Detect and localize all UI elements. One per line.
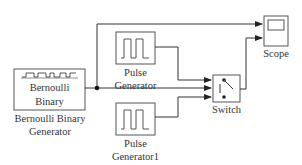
line-pulse1-to-switch [155,97,211,117]
bernoulli-block-label: Bernoulli Binary Generator [0,113,100,137]
line-switch-to-scope [240,38,262,89]
pulse-label-line1: Pulse [103,67,168,78]
branch-junction [95,86,100,91]
bernoulli-inner-line1: Bernoulli [14,82,85,93]
bernoulli-inner-line2: Binary [14,96,85,107]
bernoulli-inner-label: Bernoulli Binary [14,82,85,107]
pulse-generator-block[interactable] [116,32,155,64]
scope-block[interactable] [264,16,288,46]
switch-block[interactable] [213,75,240,102]
pulse-generator1-label: Pulse Generator1 [103,138,168,162]
pulse1-label-line2: Generator1 [103,151,168,162]
pulse1-label-line1: Pulse [103,138,168,149]
pulse-label-line2: Generator [103,80,168,91]
bernoulli-label-line2: Generator [0,126,100,137]
scope-screen-icon [268,20,284,30]
bernoulli-label-line1: Bernoulli Binary [0,113,100,124]
pulse-generator-label: Pulse Generator [103,67,168,91]
switch-label: Switch [206,104,247,115]
pulse-generator1-block[interactable] [116,103,155,135]
scope-label: Scope [258,48,294,59]
